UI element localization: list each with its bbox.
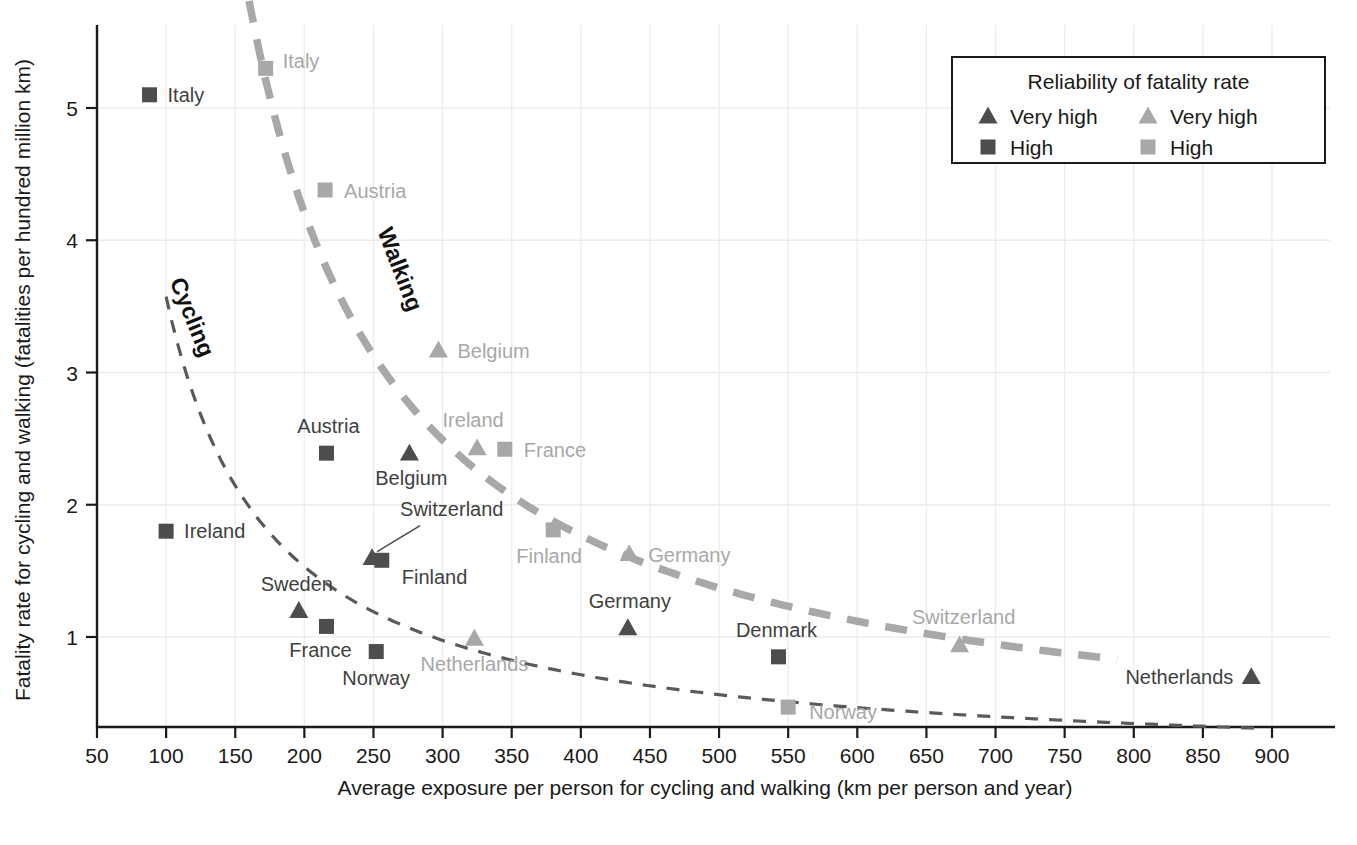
point-label-cycling-denmark: Denmark	[736, 619, 818, 641]
point-label-cycling-switzerland: Switzerland	[400, 498, 503, 520]
data-point-square-italy	[258, 61, 273, 76]
data-point-triangle-sweden	[289, 601, 308, 618]
x-axis-tick-label: 850	[1185, 744, 1220, 767]
x-axis-tick-label: 650	[909, 744, 944, 767]
point-label-cycling-austria: Austria	[297, 415, 360, 437]
x-axis-tick-label: 750	[1047, 744, 1082, 767]
data-point-square-legend-3	[1141, 140, 1156, 155]
y-axis-title: Fatality rate for cycling and walking (f…	[11, 59, 34, 701]
data-point-square-norway	[369, 644, 384, 659]
y-axis-tick-label: 5	[66, 97, 78, 120]
data-point-triangle-netherlands	[1242, 667, 1261, 684]
legend: Reliability of fatality rateVery highVer…	[952, 57, 1325, 163]
legend-label-light-triangle: Very high	[1170, 105, 1258, 128]
data-point-triangle-germany	[620, 544, 639, 561]
cycling-trend-curve	[166, 297, 1255, 729]
data-point-square-france	[319, 619, 334, 634]
point-label-cycling-germany: Germany	[589, 590, 671, 612]
legend-label-dark-triangle: Very high	[1010, 105, 1098, 128]
x-axis-tick-label: 250	[356, 744, 391, 767]
data-point-square-ireland	[159, 524, 174, 539]
point-label-walking-switzerland: Switzerland	[912, 606, 1015, 628]
y-axis-tick-label: 2	[66, 494, 78, 517]
data-point-triangle-ireland	[468, 438, 487, 455]
x-axis-tick-label: 700	[978, 744, 1013, 767]
x-axis-tick-label: 400	[563, 744, 598, 767]
point-label-cycling-italy: Italy	[168, 84, 205, 106]
legend-label-light-square: High	[1170, 136, 1213, 159]
point-label-cycling-france: France	[289, 639, 351, 661]
point-label-walking-ireland: Ireland	[443, 409, 504, 431]
point-label-walking-finland: Finland	[516, 545, 582, 567]
x-axis-tick-label: 350	[494, 744, 529, 767]
point-label-walking-germany: Germany	[648, 544, 730, 566]
y-axis-tick-label: 4	[66, 229, 78, 252]
figure-container: 5010015020025030035040045050055060065070…	[0, 0, 1357, 845]
x-axis-title: Average exposure per person for cycling …	[338, 776, 1073, 799]
data-point-square-austria	[318, 182, 333, 197]
data-point-square-norway	[781, 700, 796, 715]
data-point-triangle-belgium	[400, 444, 419, 461]
point-label-cycling-ireland: Ireland	[184, 520, 245, 542]
y-axis-tick-label: 3	[66, 362, 78, 385]
x-axis-tick-label: 450	[632, 744, 667, 767]
legend-title: Reliability of fatality rate	[1028, 70, 1250, 93]
x-axis-tick-label: 550	[771, 744, 806, 767]
point-label-walking-italy: Italy	[283, 50, 320, 72]
point-label-walking-belgium: Belgium	[457, 340, 529, 362]
data-point-triangle-belgium	[429, 341, 448, 358]
curve-label-walking: Walking	[373, 224, 429, 315]
data-point-square-finland	[546, 522, 561, 537]
x-axis-tick-label: 800	[1116, 744, 1151, 767]
x-axis-tick-label: 150	[218, 744, 253, 767]
point-label-walking-netherlands: Netherlands	[420, 653, 528, 675]
x-axis-tick-label: 300	[425, 744, 460, 767]
data-point-square-italy	[142, 87, 157, 102]
legend-label-dark-square: High	[1010, 136, 1053, 159]
curve-label-cycling: Cycling	[165, 274, 220, 361]
point-label-cycling-belgium: Belgium	[375, 467, 447, 489]
data-point-square-denmark	[771, 649, 786, 664]
point-label-cycling-sweden: Sweden	[261, 573, 333, 595]
x-axis-tick-label: 600	[840, 744, 875, 767]
point-label-walking-norway: Norway	[809, 701, 877, 723]
point-label-cycling-netherlands: Netherlands	[1125, 666, 1233, 688]
scatter-chart: 5010015020025030035040045050055060065070…	[0, 0, 1357, 845]
x-axis-tick-label: 100	[149, 744, 184, 767]
y-axis-tick-label: 1	[66, 626, 78, 649]
axis-titles: Average exposure per person for cycling …	[11, 59, 1073, 799]
x-axis-tick-label: 200	[287, 744, 322, 767]
point-label-walking-austria: Austria	[344, 180, 407, 202]
curve-labels: CyclingWalking	[165, 224, 428, 361]
point-label-walking-france: France	[524, 439, 586, 461]
data-point-triangle-germany	[618, 618, 637, 635]
data-point-square-finland	[374, 553, 389, 568]
point-label-cycling-finland: Finland	[402, 566, 468, 588]
x-axis-tick-label: 900	[1254, 744, 1289, 767]
data-point-square-france	[497, 442, 512, 457]
data-point-square-legend-2	[981, 140, 996, 155]
point-label-cycling-norway: Norway	[342, 667, 410, 689]
data-point-square-austria	[319, 446, 334, 461]
x-axis-tick-label: 50	[85, 744, 108, 767]
x-axis-tick-label: 500	[702, 744, 737, 767]
switzerland-leader-line	[377, 526, 420, 552]
